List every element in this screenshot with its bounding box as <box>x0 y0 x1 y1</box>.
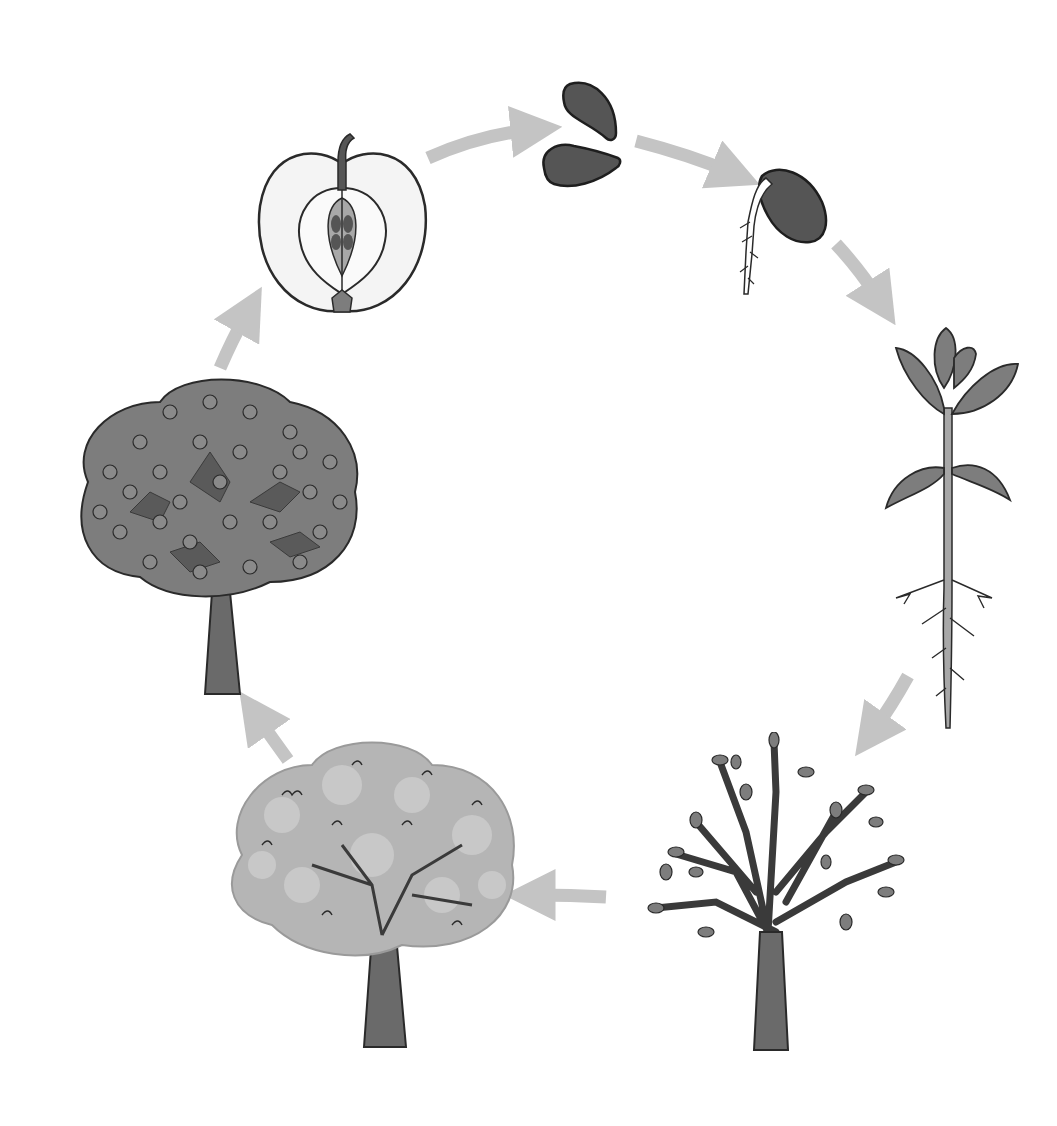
stage-young-tree <box>636 732 916 1052</box>
seedling-icon <box>882 318 1022 733</box>
stage-seedling <box>882 318 1022 733</box>
stage-apple-cross-section <box>250 126 435 321</box>
arrow-germinating-to-seedling <box>836 244 878 298</box>
arrow-fruiting-to-apple <box>220 315 246 368</box>
seeds-icon <box>538 78 623 190</box>
flowering-tree-icon <box>222 735 522 1050</box>
arrow-youngtree-to-flowering <box>536 895 606 897</box>
apple-cross-section-icon <box>250 126 435 321</box>
stage-germinating-seed <box>738 162 833 302</box>
germinating-seed-icon <box>738 162 833 302</box>
fruiting-tree-icon <box>70 372 365 697</box>
arrow-apple-to-seeds <box>428 130 530 158</box>
stage-fruiting-tree <box>70 372 365 697</box>
arrow-seeds-to-germinating <box>636 141 730 172</box>
stage-flowering-tree <box>222 735 522 1050</box>
young-tree-icon <box>636 732 916 1052</box>
stage-seeds <box>538 78 623 190</box>
